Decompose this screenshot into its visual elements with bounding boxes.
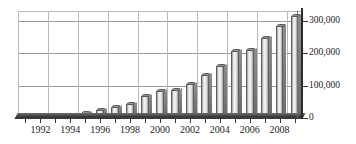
bar-side-3d (283, 24, 286, 118)
bar-body (261, 38, 269, 118)
x-axis-tick (295, 119, 296, 123)
bar-side-3d (224, 64, 227, 118)
y-axis-tick (303, 86, 308, 87)
x-axis-label: 1992 (30, 125, 50, 135)
x-axis-tick (55, 119, 56, 123)
bar-body (246, 50, 254, 118)
x-axis-tick (25, 119, 26, 123)
x-axis-tick (100, 119, 101, 123)
bar (261, 38, 269, 118)
y-axis-label: 200,000 (309, 48, 340, 58)
y-axis-label: 100,000 (309, 81, 340, 91)
x-axis-tick (250, 119, 251, 123)
bar (246, 50, 254, 118)
bar-body (216, 66, 224, 118)
x-axis-tick (220, 119, 221, 123)
y-axis-line (301, 8, 303, 119)
x-axis-label: 2000 (150, 125, 170, 135)
bar-body (201, 75, 209, 118)
bar-body (231, 51, 239, 118)
x-axis-tick (160, 119, 161, 123)
bar (201, 75, 209, 118)
y-axis-label: 0 (309, 113, 314, 123)
x-axis-label: 2004 (210, 125, 230, 135)
x-axis-tick (115, 119, 116, 123)
y-axis-tick (303, 118, 308, 119)
y-axis-tick (303, 53, 308, 54)
bar (216, 66, 224, 118)
bar-side-3d (209, 73, 212, 118)
bar-chart: 0100,000200,000300,000 19921994199619982… (0, 0, 356, 144)
x-axis-tick (175, 119, 176, 123)
x-axis-tick (130, 119, 131, 123)
x-axis-tick (190, 119, 191, 123)
x-axis-label: 2002 (180, 125, 200, 135)
bar-top-3d (231, 49, 240, 52)
x-axis-tick (235, 119, 236, 123)
x-axis-tick (265, 119, 266, 123)
x-axis-tick (205, 119, 206, 123)
y-axis-backline (297, 11, 298, 118)
bar-side-3d (254, 48, 257, 118)
bar-side-3d (239, 49, 242, 118)
x-axis-label: 1998 (120, 125, 140, 135)
x-axis-label: 1996 (90, 125, 110, 135)
bar-top-3d (261, 36, 270, 39)
x-axis-label: 1994 (60, 125, 80, 135)
bar (276, 26, 284, 118)
x-axis-tick (280, 119, 281, 123)
y-axis-tick (303, 21, 308, 22)
x-axis-tick (85, 119, 86, 123)
bar-series (18, 11, 302, 118)
x-axis-label: 2008 (270, 125, 290, 135)
x-axis-tick (145, 119, 146, 123)
x-axis-tick (40, 119, 41, 123)
x-axis-label: 2006 (240, 125, 260, 135)
x-axis-tick (70, 119, 71, 123)
bar-top-3d (291, 14, 300, 17)
bar-side-3d (269, 36, 272, 118)
bar (231, 51, 239, 118)
y-axis-label: 300,000 (309, 16, 340, 26)
